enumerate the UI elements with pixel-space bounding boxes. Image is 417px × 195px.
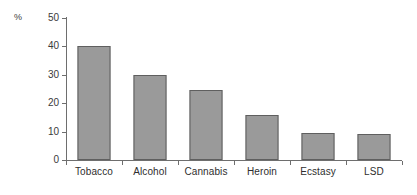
plot-area: 01020304050	[66, 18, 402, 160]
bar-alcohol[interactable]	[134, 75, 167, 160]
bar-tobacco[interactable]	[78, 46, 111, 160]
bar-heroin[interactable]	[246, 115, 279, 160]
bar-slot	[290, 18, 346, 160]
x-axis-tick	[290, 161, 291, 165]
category-label-lsd: LSD	[364, 166, 384, 177]
x-axis-tick	[66, 161, 67, 165]
x-axis-tick	[402, 161, 403, 165]
category-label-cannabis: Cannabis	[184, 166, 227, 177]
y-axis-tick-label: 50	[48, 13, 59, 23]
category-label-ecstasy: Ecstasy	[300, 166, 336, 177]
y-axis-tick-label: 30	[48, 70, 59, 80]
category-label-tobacco: Tobacco	[75, 166, 113, 177]
bar-ecstasy[interactable]	[302, 133, 335, 160]
y-axis-tick-label: 10	[48, 127, 59, 137]
x-axis-tick	[346, 161, 347, 165]
category-label-heroin: Heroin	[247, 166, 277, 177]
y-axis-unit-label: %	[14, 12, 22, 22]
bar-lsd[interactable]	[358, 134, 391, 160]
bar-slot	[234, 18, 290, 160]
bar-slot	[178, 18, 234, 160]
bar-slot	[66, 18, 122, 160]
bar-chart-figure: % 01020304050 TobaccoAlcoholCannabisHero…	[0, 0, 417, 195]
y-axis-tick-label: 0	[53, 155, 59, 165]
bar-cannabis[interactable]	[190, 90, 223, 160]
y-axis-tick-label: 40	[48, 41, 59, 51]
bar-slot	[122, 18, 178, 160]
category-label-alcohol: Alcohol	[133, 166, 167, 177]
x-axis-tick	[178, 161, 179, 165]
y-axis-tick-label: 20	[48, 98, 59, 108]
bar-slot	[346, 18, 402, 160]
x-axis-tick	[234, 161, 235, 165]
x-axis-tick	[122, 161, 123, 165]
